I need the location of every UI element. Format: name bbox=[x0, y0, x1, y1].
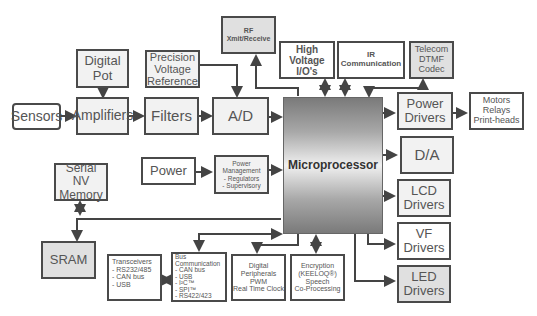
block-encryption: Encryption (KEELOQ®) Speech Co-Processin… bbox=[290, 254, 345, 301]
block-da-converter: D/A bbox=[400, 136, 454, 174]
block-label: LCD Drivers bbox=[403, 184, 444, 213]
block-label: Power Drivers bbox=[404, 97, 445, 126]
block-ad-converter: A/D bbox=[212, 97, 269, 135]
block-high-voltage-io: High Voltage I/O's bbox=[279, 41, 335, 79]
block-label: Serial NV Memory bbox=[56, 162, 106, 202]
block-precision-voltage-reference: Precision Voltage Reference bbox=[145, 50, 200, 88]
block-label: RF Xmit/Receive bbox=[227, 27, 271, 42]
block-label: Power bbox=[150, 164, 187, 178]
block-transceivers: Transceivers - RS232/485 - CAN bus - USB bbox=[107, 254, 162, 301]
block-label: Sensors bbox=[11, 109, 62, 124]
block-label: Transceivers - RS232/485 - CAN bus - USB bbox=[112, 258, 152, 289]
block-amplifiers: Amplifiers bbox=[76, 97, 129, 135]
block-label: D/A bbox=[414, 147, 439, 164]
block-label: SRAM bbox=[50, 253, 88, 267]
block-power-drivers: Power Drivers bbox=[397, 92, 453, 130]
block-power-management: Power Management - Regulators - Supervis… bbox=[214, 155, 269, 194]
block-digital-pot: Digital Pot bbox=[76, 49, 129, 88]
block-microprocessor: Microprocessor bbox=[283, 97, 383, 234]
block-label: Power Management - Regulators - Supervis… bbox=[222, 160, 260, 189]
block-label: Motors Relays Print-heads bbox=[473, 96, 519, 126]
block-lcd-drivers: LCD Drivers bbox=[397, 179, 451, 217]
block-label: Bus Communication - CAN bus - USB - I²C™… bbox=[175, 254, 220, 300]
block-label: Encryption (KEELOQ®) Speech Co-Processin… bbox=[295, 262, 341, 293]
block-rf-xmit-receive: RF Xmit/Receive bbox=[221, 16, 276, 54]
block-motors-relays: Motors Relays Print-heads bbox=[469, 92, 524, 130]
block-label: VF Drivers bbox=[403, 227, 444, 256]
block-label: Amplifiers bbox=[72, 108, 133, 123]
block-sensors: Sensors bbox=[12, 103, 61, 130]
block-label: Filters bbox=[151, 108, 192, 125]
block-vf-drivers: VF Drivers bbox=[397, 222, 451, 260]
block-sram: SRAM bbox=[41, 241, 96, 279]
block-label: Precision Voltage Reference bbox=[147, 51, 198, 87]
block-label: LED Drivers bbox=[403, 270, 444, 299]
block-label: Digital Pot bbox=[84, 54, 120, 83]
block-label: A/D bbox=[228, 108, 253, 125]
block-power: Power bbox=[141, 157, 196, 185]
block-label: IR Communication bbox=[341, 51, 401, 69]
block-bus-communication: Bus Communication - CAN bus - USB - I²C™… bbox=[171, 252, 227, 302]
block-label: Telecom DTMF Codec bbox=[415, 45, 449, 75]
block-telecom-dtmf-codec: Telecom DTMF Codec bbox=[409, 41, 454, 79]
block-filters: Filters bbox=[144, 97, 199, 135]
block-serial-nv-memory: Serial NV Memory bbox=[54, 163, 108, 201]
block-led-drivers: LED Drivers bbox=[397, 265, 451, 303]
block-digital-peripherals: Digital Peripherals PWM Real Time Clock bbox=[231, 254, 286, 301]
block-label: Digital Peripherals PWM Real Time Clock bbox=[233, 262, 284, 293]
block-label: High Voltage I/O's bbox=[289, 44, 324, 77]
block-ir-communication: IR Communication bbox=[337, 41, 405, 79]
block-label: Microprocessor bbox=[288, 159, 378, 172]
